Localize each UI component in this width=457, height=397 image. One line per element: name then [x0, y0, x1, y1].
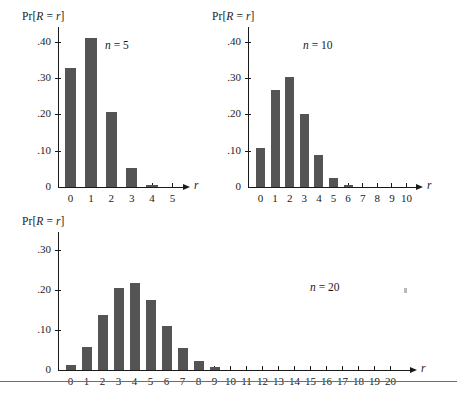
bar [98, 315, 108, 370]
x-axis-tick-label: 10 [396, 192, 417, 204]
y-axis-caption-equals: = [43, 10, 56, 22]
y-axis-tick [55, 290, 61, 291]
x-axis-tick-label: 2 [101, 192, 122, 204]
y-axis-tick [55, 330, 61, 331]
x-axis-tick [278, 366, 279, 371]
x-axis-tick-label: 5 [162, 192, 183, 204]
series-label-n: n = 5 [105, 39, 129, 51]
y-axis-tick-label: .40 [215, 35, 241, 47]
x-axis-tick [406, 183, 407, 188]
y-axis-tick [245, 78, 251, 79]
x-axis-tick [230, 366, 231, 371]
y-axis-tick [55, 151, 61, 152]
bar [65, 68, 77, 187]
x-axis-tick [362, 183, 363, 188]
y-axis-caption: Pr[R = r] [212, 10, 255, 22]
footer-divider-rule [0, 381, 457, 382]
y-axis-caption-prefix: Pr[ [22, 10, 36, 22]
y-axis-tick-label: .20 [215, 107, 241, 119]
x-axis-tick [377, 183, 378, 188]
y-axis-line [58, 232, 59, 371]
bar [178, 348, 188, 370]
x-axis-arrowhead [416, 184, 423, 190]
y-axis-caption-equals: = [233, 10, 246, 22]
x-axis-tick-label: 4 [142, 192, 163, 204]
x-axis-tick [326, 366, 327, 371]
y-axis-tick-label: 0 [215, 180, 241, 192]
bar [146, 185, 158, 187]
x-axis-label: r [427, 179, 431, 191]
bar [194, 361, 204, 370]
x-axis-arrowhead [410, 367, 417, 373]
x-axis-tick [294, 366, 295, 371]
y-axis-tick-label: .30 [25, 243, 51, 255]
y-axis-tick-label: .40 [25, 35, 51, 47]
series-label-n-equals: = [316, 281, 328, 293]
y-axis-caption: Pr[R = r] [22, 215, 65, 227]
y-axis-caption-suffix: ] [251, 10, 255, 22]
y-axis-caption-equals: = [43, 215, 56, 227]
bar [300, 114, 309, 187]
series-label-n-equals: = [111, 39, 123, 51]
bar [82, 347, 92, 370]
series-label-n-value: 20 [328, 281, 340, 293]
y-axis-tick-label: .10 [25, 323, 51, 335]
x-axis-tick [310, 366, 311, 371]
y-axis-caption-prefix: Pr[ [212, 10, 226, 22]
x-axis-tick [374, 366, 375, 371]
y-axis-tick-label: 0 [25, 180, 51, 192]
y-axis-tick-label: .10 [215, 144, 241, 156]
bar [162, 326, 172, 370]
y-axis-caption-prefix: Pr[ [22, 215, 36, 227]
y-axis-tick [55, 114, 61, 115]
y-axis-tick-label: .30 [25, 71, 51, 83]
x-axis-label: r [194, 179, 198, 191]
y-axis-tick-label: .30 [215, 71, 241, 83]
x-axis-tick-label: 3 [121, 192, 142, 204]
bar [130, 283, 140, 370]
bar [114, 288, 124, 370]
x-axis-tick-label: 0 [60, 192, 81, 204]
series-label-n: n = 20 [310, 281, 340, 293]
y-axis-line [58, 27, 59, 188]
x-axis-line [58, 187, 183, 188]
y-axis-tick-label: .20 [25, 283, 51, 295]
y-axis-tick [55, 42, 61, 43]
y-axis-tick-label: .20 [25, 107, 51, 119]
series-label-n: n = 10 [303, 39, 333, 51]
bar [329, 178, 338, 187]
binomial-distribution-figure: Pr[R = r]n = 5r.40.30.20.100012345 Pr[R … [0, 0, 457, 397]
y-axis-tick-label: .10 [25, 144, 51, 156]
y-axis-tick [245, 151, 251, 152]
bar [85, 38, 97, 187]
bar [210, 367, 220, 370]
x-axis-tick [391, 183, 392, 188]
series-label-n-value: 10 [321, 39, 333, 51]
x-axis-tick [342, 366, 343, 371]
x-axis-tick [358, 366, 359, 371]
x-axis-tick [246, 366, 247, 371]
y-axis-line [248, 27, 249, 188]
y-axis-caption-suffix: ] [61, 10, 65, 22]
bar [126, 168, 138, 187]
bar [314, 155, 323, 187]
bar [106, 112, 118, 187]
y-axis-tick [245, 42, 251, 43]
x-axis-tick [390, 366, 391, 371]
bar [66, 365, 76, 370]
y-axis-tick [245, 114, 251, 115]
y-axis-tick [55, 250, 61, 251]
x-axis-label: r [421, 362, 425, 374]
bar [256, 148, 265, 187]
y-axis-caption: Pr[R = r] [22, 10, 65, 22]
x-axis-arrowhead [183, 184, 190, 190]
y-axis-caption-suffix: ] [61, 215, 65, 227]
series-label-n-equals: = [309, 39, 321, 51]
y-axis-tick [55, 78, 61, 79]
series-label-n-value: 5 [123, 39, 129, 51]
x-axis-tick-label: 1 [80, 192, 101, 204]
bar [285, 77, 294, 187]
bar [146, 300, 156, 370]
bar [344, 185, 353, 187]
y-axis-tick-label: 0 [25, 363, 51, 375]
